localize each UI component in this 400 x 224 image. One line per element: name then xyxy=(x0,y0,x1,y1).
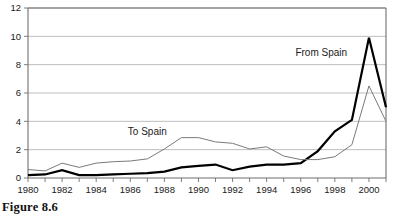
x-tick-label: 2000 xyxy=(358,184,379,195)
series-annotations: From SpainTo Spain xyxy=(128,47,347,137)
x-tick-label: 1982 xyxy=(52,184,73,195)
y-tick-label: 6 xyxy=(16,87,21,98)
x-tick-label: 1984 xyxy=(86,184,107,195)
y-tick-label: 0 xyxy=(16,172,21,183)
x-tick-label: 1988 xyxy=(154,184,175,195)
chart-svg: 024681012 198019821984198619881990199219… xyxy=(0,0,400,196)
x-axis-tick-labels: 1980198219841986198819901992199419961998… xyxy=(17,184,379,195)
y-tick-label: 10 xyxy=(10,31,21,42)
y-tick-label: 2 xyxy=(16,144,21,155)
y-tick-marks xyxy=(24,8,28,178)
x-tick-label: 1998 xyxy=(324,184,345,195)
x-tick-label: 1980 xyxy=(17,184,38,195)
series-label-1: From Spain xyxy=(295,47,347,58)
series-label-2: To Spain xyxy=(128,126,167,137)
y-tick-label: 8 xyxy=(16,59,21,70)
line-chart: 024681012 198019821984198619881990199219… xyxy=(0,0,400,196)
x-tick-label: 1992 xyxy=(222,184,243,195)
figure-container: 024681012 198019821984198619881990199219… xyxy=(0,0,400,224)
series-line-2 xyxy=(28,86,386,171)
series-lines xyxy=(28,38,386,175)
x-tick-marks xyxy=(28,178,386,182)
x-tick-label: 1986 xyxy=(120,184,141,195)
y-axis-tick-labels: 024681012 xyxy=(10,2,21,183)
figure-caption: Figure 8.6 xyxy=(2,200,58,215)
series-line-1 xyxy=(28,38,386,175)
x-tick-label: 1996 xyxy=(290,184,311,195)
y-tick-label: 4 xyxy=(16,116,21,127)
gridlines xyxy=(28,8,386,150)
x-tick-label: 1994 xyxy=(256,184,277,195)
y-tick-label: 12 xyxy=(10,2,21,13)
x-tick-label: 1990 xyxy=(188,184,209,195)
